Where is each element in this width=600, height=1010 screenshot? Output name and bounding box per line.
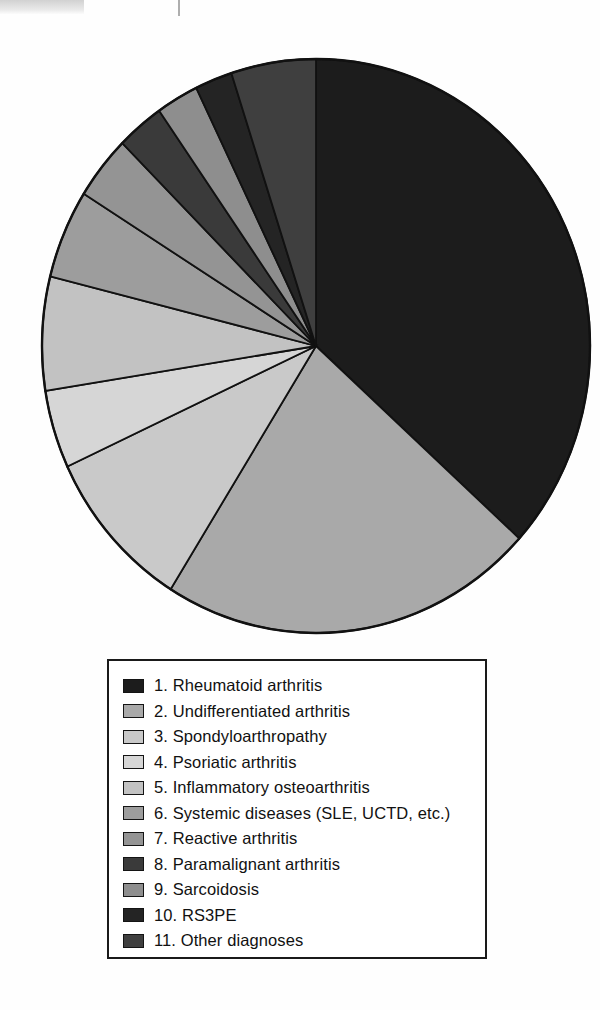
legend-box: 1. Rheumatoid arthritis 2. Undifferentia… <box>107 659 487 959</box>
legend-label-9: 9. Sarcoidosis <box>154 880 259 899</box>
legend-swatch-icon-11 <box>123 934 144 948</box>
legend-label-3: 3. Spondyloarthropathy <box>154 727 327 746</box>
legend-item-9[interactable]: 9. Sarcoidosis <box>123 877 485 903</box>
legend-swatch-icon-10 <box>123 908 144 922</box>
pie-slice-group <box>42 59 590 633</box>
legend-label-2: 2. Undifferentiated arthritis <box>154 702 350 721</box>
pie-chart-svg <box>0 0 600 660</box>
legend-swatch-icon-1 <box>123 679 144 693</box>
legend-swatch-icon-9 <box>123 883 144 897</box>
legend-swatch-icon-3 <box>123 730 144 744</box>
legend-label-6: 6. Systemic diseases (SLE, UCTD, etc.) <box>154 804 450 823</box>
legend-item-1[interactable]: 1. Rheumatoid arthritis <box>123 673 485 699</box>
legend-label-5: 5. Inflammatory osteoarthritis <box>154 778 370 797</box>
legend-item-2[interactable]: 2. Undifferentiated arthritis <box>123 699 485 725</box>
legend-item-6[interactable]: 6. Systemic diseases (SLE, UCTD, etc.) <box>123 801 485 827</box>
legend-item-8[interactable]: 8. Paramalignant arthritis <box>123 852 485 878</box>
legend-item-7[interactable]: 7. Reactive arthritis <box>123 826 485 852</box>
legend-swatch-icon-4 <box>123 755 144 769</box>
legend-item-4[interactable]: 4. Psoriatic arthritis <box>123 750 485 776</box>
legend-label-7: 7. Reactive arthritis <box>154 829 297 848</box>
legend-item-11[interactable]: 11. Other diagnoses <box>123 928 485 954</box>
legend-label-11: 11. Other diagnoses <box>154 931 303 950</box>
legend-label-4: 4. Psoriatic arthritis <box>154 753 297 772</box>
legend-item-10[interactable]: 10. RS3PE <box>123 903 485 929</box>
legend-swatch-icon-5 <box>123 781 144 795</box>
pie-chart-figure <box>0 0 600 660</box>
legend-item-3[interactable]: 3. Spondyloarthropathy <box>123 724 485 750</box>
legend-swatch-icon-7 <box>123 832 144 846</box>
legend-swatch-icon-2 <box>123 704 144 718</box>
legend-item-5[interactable]: 5. Inflammatory osteoarthritis <box>123 775 485 801</box>
legend-swatch-icon-8 <box>123 857 144 871</box>
legend-label-1: 1. Rheumatoid arthritis <box>154 676 322 695</box>
legend-swatch-icon-6 <box>123 806 144 820</box>
legend-label-10: 10. RS3PE <box>154 906 237 925</box>
legend-label-8: 8. Paramalignant arthritis <box>154 855 340 874</box>
